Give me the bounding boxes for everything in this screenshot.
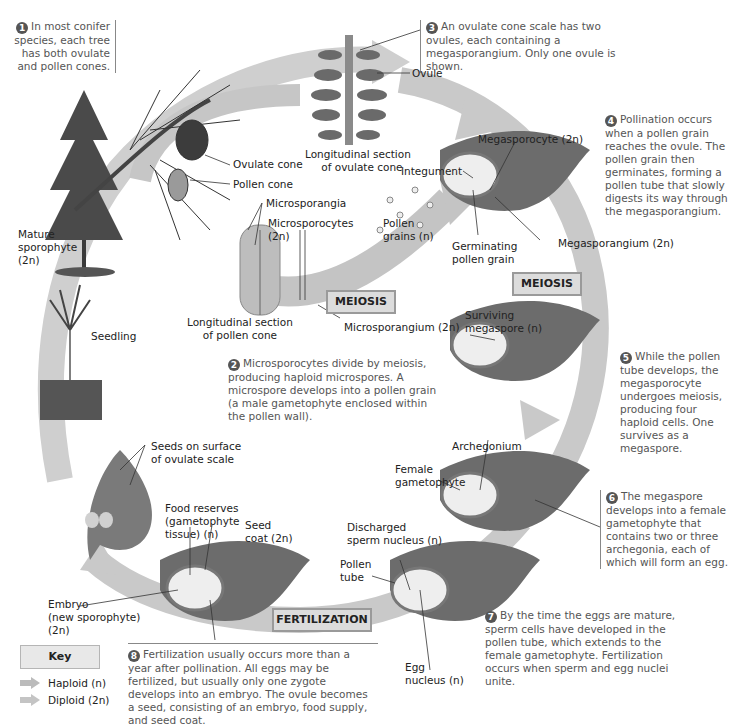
- step-7-note: 7By the time the eggs are mature, sperm …: [485, 609, 700, 688]
- label-discharged-sperm-nucleus: Dischargedsperm nucleus (n): [347, 521, 442, 547]
- step-1-note: 1In most conifer species, each tree has …: [4, 20, 116, 73]
- key-item-haploid: Haploid (n): [20, 677, 106, 689]
- label-pollen-grains: Pollengrains (n): [383, 217, 434, 243]
- meiosis-box-female: MEIOSIS: [512, 272, 582, 296]
- light-arrow-icon: [20, 677, 42, 689]
- step-5-number: 5: [620, 352, 632, 364]
- label-microsporangium: Microsporangium (2n): [344, 321, 460, 334]
- ovulate-scale-with-seeds: [85, 450, 152, 560]
- key-item-diploid: Diploid (2n): [20, 694, 109, 706]
- meiosis-box-male: MEIOSIS: [326, 290, 396, 314]
- label-archegonium: Archegonium: [452, 440, 522, 453]
- label-pollen-cone: Pollen cone: [233, 178, 293, 191]
- step-3-number: 3: [426, 22, 438, 34]
- fertilization-box: FERTILIZATION: [272, 608, 372, 632]
- ovulate-cone-section: [311, 35, 387, 145]
- label-female-gametophyte: Femalegametophyte: [395, 463, 465, 489]
- label-ovule: Ovule: [412, 67, 443, 80]
- step-6-note: 6The megaspore develops into a female ga…: [600, 490, 737, 569]
- label-embryo: Embryo(new sporophyte)(2n): [48, 598, 140, 637]
- step-7-number: 7: [485, 611, 497, 623]
- haploid-arrowhead-2: [520, 400, 560, 440]
- label-food-reserves: Food reserves(gametophytetissue) (n): [165, 502, 240, 541]
- step-3-note: 3An ovulate cone scale has two ovules, e…: [420, 20, 641, 73]
- step-2-number: 2: [228, 359, 240, 371]
- label-seedling: Seedling: [91, 330, 136, 343]
- label-long-section-pollen: Longitudinal sectionof pollen cone: [187, 316, 293, 342]
- label-surviving-megaspore: Survivingmegaspore (n): [465, 309, 542, 335]
- step-5-note: 5While the pollen tube develops, the meg…: [620, 350, 735, 455]
- label-megasporocyte: Megasporocyte (2n): [478, 133, 583, 146]
- label-microsporangia: Microsporangia: [266, 197, 346, 210]
- step-8-number: 8: [128, 650, 140, 662]
- step-8-note: 8Fertilization usually occurs more than …: [128, 648, 368, 724]
- label-pollen-tube: Pollentube: [340, 558, 371, 584]
- step-4-number: 4: [605, 115, 617, 127]
- key-title: Key: [20, 645, 100, 669]
- step-4-note: 4Pollination occurs when a pollen grain …: [605, 113, 733, 218]
- label-germinating-pollen-grain: Germinatingpollen grain: [452, 240, 517, 266]
- label-long-section-ovulate: Longitudinal sectionof ovulate cone: [305, 148, 411, 174]
- step-6-number: 6: [606, 492, 618, 504]
- label-megasporangium: Megasporangium (2n): [558, 237, 674, 250]
- step-8-divider: [128, 643, 378, 644]
- label-integument: Integument: [401, 165, 462, 178]
- label-seed-coat: Seedcoat (2n): [245, 519, 293, 545]
- label-seeds-on-surface: Seeds on surfaceof ovulate scale: [151, 440, 241, 466]
- step-2-note: 2Microsporocytes divide by meiosis, prod…: [228, 357, 443, 423]
- pollen-grain-arrow: [270, 200, 450, 292]
- label-egg-nucleus: Eggnucleus (n): [405, 661, 464, 687]
- step-1-number: 1: [16, 22, 28, 34]
- gray-arrow-icon: [20, 694, 42, 706]
- label-mature-sporophyte: Maturesporophyte(2n): [18, 228, 77, 267]
- label-ovulate-cone: Ovulate cone: [233, 158, 303, 171]
- pine-life-cycle-diagram: 1In most conifer species, each tree has …: [0, 0, 737, 724]
- label-microsporocytes: Microsporocytes(2n): [268, 217, 353, 243]
